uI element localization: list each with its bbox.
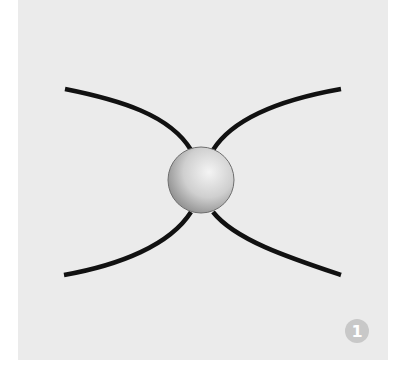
curve-top-left (65, 89, 191, 150)
diagram-canvas: 1 (0, 0, 401, 369)
curve-bottom-left (64, 212, 191, 275)
sphere (168, 147, 234, 213)
curve-bottom-right (213, 212, 341, 275)
curve-top-right (213, 89, 341, 150)
step-badge-label: 1 (351, 322, 362, 341)
